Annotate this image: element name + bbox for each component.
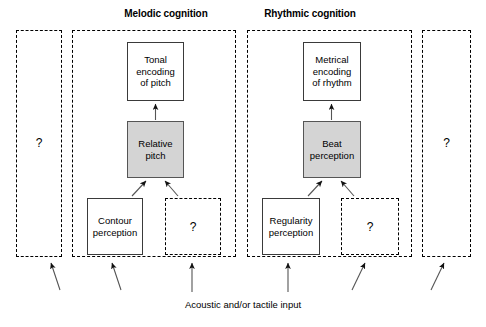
node-beat-perception-label: Beatperception xyxy=(310,138,354,161)
node-melodic-unknown-label: ? xyxy=(190,220,197,234)
column-title-rhythmic: Rhythmic cognition xyxy=(245,8,375,19)
node-rhythmic-unknown: ? xyxy=(341,198,399,255)
region-left-unknown-label: ? xyxy=(16,137,62,149)
node-regularity-perception: Regularityperception xyxy=(262,198,320,255)
arrow-input-to-melodic xyxy=(112,263,121,290)
arrow-input-to-left-unknown xyxy=(51,263,60,290)
region-right-unknown-label: ? xyxy=(422,137,471,149)
node-metrical-encoding-of-rhythm-label: Metricalencodingof rhythm xyxy=(312,54,352,89)
arrow-input-to-rhythmic-unknown xyxy=(352,263,365,290)
node-rhythmic-unknown-label: ? xyxy=(367,220,374,234)
node-tonal-encoding-of-pitch: Tonalencodingof pitch xyxy=(127,42,184,101)
node-relative-pitch-label: Relativepitch xyxy=(138,138,172,161)
node-contour-perception-label: Contourperception xyxy=(93,215,137,238)
node-relative-pitch: Relativepitch xyxy=(127,121,184,178)
node-contour-perception: Contourperception xyxy=(87,198,143,255)
column-title-melodic: Melodic cognition xyxy=(106,8,226,19)
node-metrical-encoding-of-rhythm: Metricalencodingof rhythm xyxy=(303,42,361,101)
input-caption: Acoustic and/or tactile input xyxy=(158,299,328,310)
node-melodic-unknown: ? xyxy=(165,198,221,255)
node-regularity-perception-label: Regularityperception xyxy=(269,215,313,238)
arrow-input-to-right-unknown xyxy=(431,263,444,290)
node-tonal-encoding-of-pitch-label: Tonalencodingof pitch xyxy=(136,54,175,89)
node-beat-perception: Beatperception xyxy=(303,121,361,178)
figure-canvas: Melodic cognition Rhythmic cognition ? T… xyxy=(0,0,486,327)
